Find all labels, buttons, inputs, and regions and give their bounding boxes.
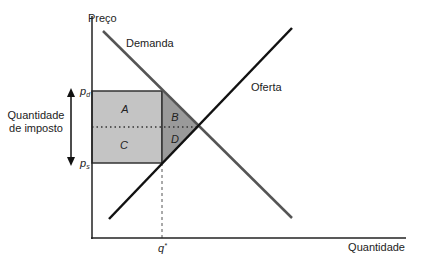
arrow-up-icon (67, 88, 75, 97)
region-a-label: A (120, 103, 128, 115)
region-b-label: B (171, 111, 178, 123)
x-axis-label: Quantidade (348, 241, 405, 253)
region-d-label: D (171, 133, 179, 145)
tax-label-line1: Quantidade (8, 109, 65, 121)
arrow-down-icon (67, 157, 75, 166)
demand-label: Demanda (126, 37, 175, 49)
y-axis-label: Preço (88, 12, 117, 24)
supply-label: Oferta (251, 81, 282, 93)
region-c-label: C (120, 139, 128, 151)
tax-incidence-diagram: Preço Quantidade Demanda Oferta pd ps q*… (0, 0, 423, 263)
q-star-label: q* (158, 242, 167, 254)
ps-label: ps (79, 157, 90, 170)
pd-label: pd (79, 85, 91, 98)
tax-label-line2: de imposto (9, 122, 63, 134)
deadweight-loss-triangle (162, 91, 199, 163)
